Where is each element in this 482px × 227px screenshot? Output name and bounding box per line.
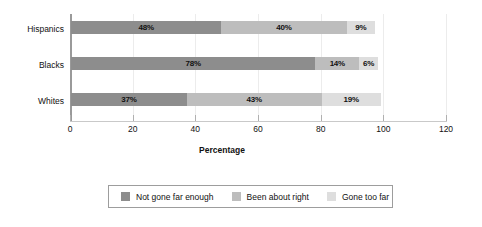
x-axis-title-text: Percentage: [199, 145, 245, 155]
legend: Not gone far enough Been about right Gon…: [108, 185, 393, 208]
bar-value-label: 9%: [355, 23, 366, 32]
legend-swatch-icon: [121, 192, 130, 201]
gridline-100: [383, 14, 384, 119]
bar-segment-whites-been-about-right[interactable]: 43%: [187, 93, 322, 106]
bar-value-label: 40%: [276, 23, 291, 32]
bar-value-label: 6%: [363, 59, 374, 68]
legend-label: Not gone far enough: [136, 192, 214, 202]
bar-value-label: 14%: [330, 59, 345, 68]
x-tick-mark-20: [133, 115, 134, 121]
x-tick-mark-80: [321, 115, 322, 121]
bar-value-label: 37%: [121, 95, 136, 104]
x-tick-mark-40: [195, 115, 196, 121]
bar-segment-blacks-been-about-right[interactable]: 14%: [315, 57, 359, 70]
category-label-hispanics: Hispanics: [0, 24, 64, 34]
legend-label: Been about right: [247, 192, 309, 202]
x-tick-mark-100: [383, 115, 384, 121]
x-tick-label-120: 120: [439, 124, 453, 134]
x-tick-label-100: 100: [376, 124, 390, 134]
bar-segment-whites-not-gone-far-enough[interactable]: 37%: [71, 93, 187, 106]
x-tick-mark-0: [70, 115, 71, 121]
bar-value-label: 78%: [185, 59, 200, 68]
x-tick-label-60: 60: [253, 124, 262, 134]
x-tick-label-40: 40: [191, 124, 200, 134]
x-tick-mark-60: [258, 115, 259, 121]
bar-segment-hispanics-not-gone-far-enough[interactable]: 48%: [71, 21, 221, 34]
bar-segment-blacks-not-gone-far-enough[interactable]: 78%: [71, 57, 315, 70]
bar-row-whites: 37% 43% 19%: [71, 93, 381, 106]
bar-segment-blacks-gone-too-far[interactable]: 6%: [359, 57, 378, 70]
legend-label: Gone too far: [342, 192, 389, 202]
x-tick-mark-120: [446, 115, 447, 121]
x-tick-label-80: 80: [316, 124, 325, 134]
bar-value-label: 43%: [247, 95, 262, 104]
x-axis-line: [70, 121, 447, 122]
x-tick-label-20: 20: [128, 124, 137, 134]
x-axis-title: Percentage: [0, 145, 482, 155]
bar-segment-hispanics-been-about-right[interactable]: 40%: [221, 21, 346, 34]
bar-segment-whites-gone-too-far[interactable]: 19%: [322, 93, 382, 106]
x-tick-label-0: 0: [68, 124, 73, 134]
legend-swatch-icon: [327, 192, 336, 201]
gridline-120: [446, 14, 447, 119]
stacked-bar-chart: Hispanics 48% 40% 9% Blacks 78% 14% 6% W…: [0, 0, 482, 227]
bar-row-blacks: 78% 14% 6%: [71, 57, 378, 70]
legend-item-not-gone-far-enough[interactable]: Not gone far enough: [121, 192, 214, 202]
bar-value-label: 19%: [344, 95, 359, 104]
legend-item-gone-too-far[interactable]: Gone too far: [327, 192, 389, 202]
bar-segment-hispanics-gone-too-far[interactable]: 9%: [347, 21, 375, 34]
legend-item-been-about-right[interactable]: Been about right: [232, 192, 309, 202]
bar-value-label: 48%: [138, 23, 153, 32]
category-label-blacks: Blacks: [0, 60, 64, 70]
category-label-whites: Whites: [0, 96, 64, 106]
bar-row-hispanics: 48% 40% 9%: [71, 21, 375, 34]
legend-swatch-icon: [232, 192, 241, 201]
